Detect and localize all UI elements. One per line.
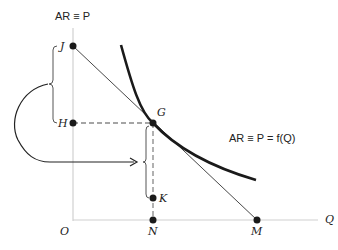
demand-curve [121, 45, 256, 180]
label-G: G [157, 106, 166, 119]
point-G [150, 120, 157, 127]
point-K [150, 195, 157, 202]
point-J [70, 43, 77, 50]
label-N: N [148, 225, 158, 238]
label-J: J [60, 40, 64, 53]
label-O: O [60, 225, 69, 238]
label-K: K [159, 192, 167, 205]
curve-label: AR ≡ P = f(Q) [229, 132, 295, 144]
diagram-canvas [0, 0, 338, 250]
y-axis-label: AR ≡ P [55, 10, 90, 22]
point-M [254, 217, 261, 224]
label-H: H [58, 117, 68, 130]
point-N [150, 217, 157, 224]
brace-JH [49, 46, 57, 123]
label-M: M [251, 225, 262, 238]
point-H [70, 120, 77, 127]
x-axis-label: Q [325, 213, 334, 226]
brace-GK [143, 126, 149, 198]
